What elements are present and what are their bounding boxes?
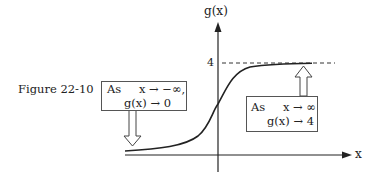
y-axis-arrow-icon <box>215 22 222 32</box>
figure-caption: Figure 22-10 <box>18 82 94 96</box>
x-axis-arrow-icon <box>342 152 352 159</box>
right-callout-arrow-icon <box>295 66 312 96</box>
left-limit-callout: As x → −∞, g(x) → 0 <box>101 81 187 111</box>
right-callout-as: As <box>251 100 265 114</box>
left-callout-arrow-icon <box>124 109 141 146</box>
right-limit-callout: As x → ∞ g(x) → 4 <box>246 96 318 132</box>
right-callout-result: g(x) → 4 <box>247 114 317 128</box>
left-callout-result: g(x) → 0 <box>102 96 186 110</box>
left-callout-limit: x → −∞, <box>139 82 185 96</box>
y-axis-label: g(x) <box>204 4 228 18</box>
x-axis-label: x <box>355 147 362 161</box>
left-callout-as: As <box>107 82 121 96</box>
asymptote-tick-label: 4 <box>207 56 214 69</box>
right-callout-limit: x → ∞ <box>283 100 316 114</box>
